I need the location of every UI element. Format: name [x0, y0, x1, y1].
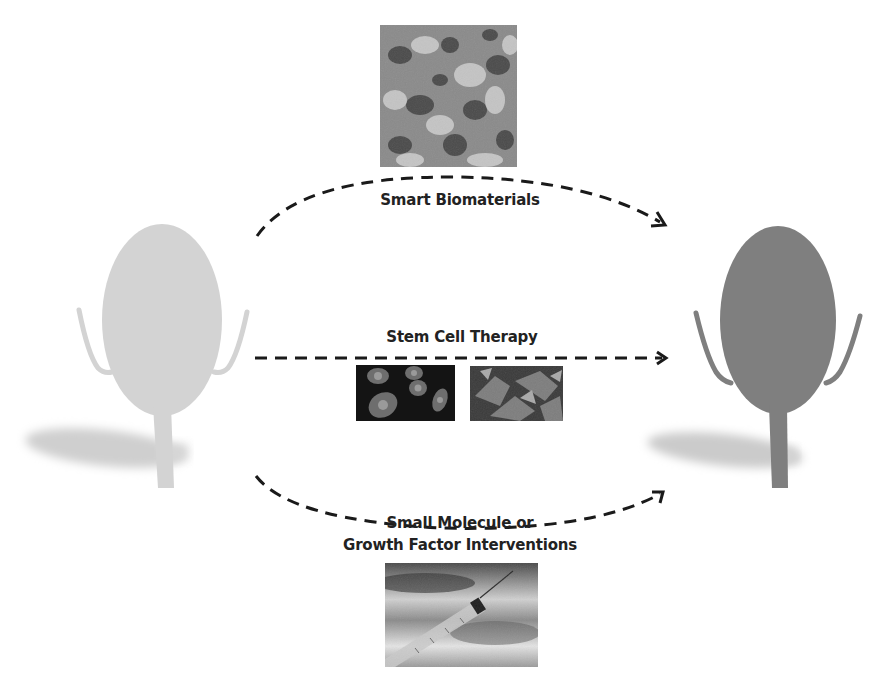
bladder-body — [102, 224, 222, 416]
syringe-image — [385, 563, 538, 667]
stained-tissue-cells-image — [470, 366, 563, 421]
label-small-molecule-line1: Small Molecule or — [330, 512, 590, 534]
organ-stem — [769, 405, 788, 488]
diseased-organ — [24, 224, 247, 488]
regenerated-organ — [646, 226, 860, 488]
sem-micrograph-image — [380, 25, 517, 167]
fluorescent-stem-cells-image — [356, 365, 455, 421]
label-smart-biomaterials: Smart Biomaterials — [370, 191, 550, 209]
label-growth-factor-line2: Growth Factor Interventions — [330, 534, 590, 556]
label-stem-cell-therapy: Stem Cell Therapy — [372, 328, 552, 346]
organ-stem — [153, 405, 174, 488]
arrowhead-biomaterials — [651, 212, 665, 226]
label-small-molecule: Small Molecule or Growth Factor Interven… — [330, 512, 590, 556]
arrows — [255, 177, 662, 528]
arrowhead-smallmol — [652, 492, 663, 503]
bladder-body — [720, 226, 836, 414]
